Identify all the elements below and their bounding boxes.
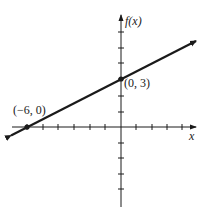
point-b-label: (0, 3) [124,76,150,90]
x-axis-label: x [188,129,195,143]
y-axis-label: f(x) [125,14,142,28]
point-a-label: (−6, 0) [13,103,46,117]
line-graph: (−6, 0) (0, 3) f(x) x [0,0,205,223]
point-x-intercept [24,124,29,129]
point-y-intercept [118,76,123,81]
function-line [11,41,196,136]
